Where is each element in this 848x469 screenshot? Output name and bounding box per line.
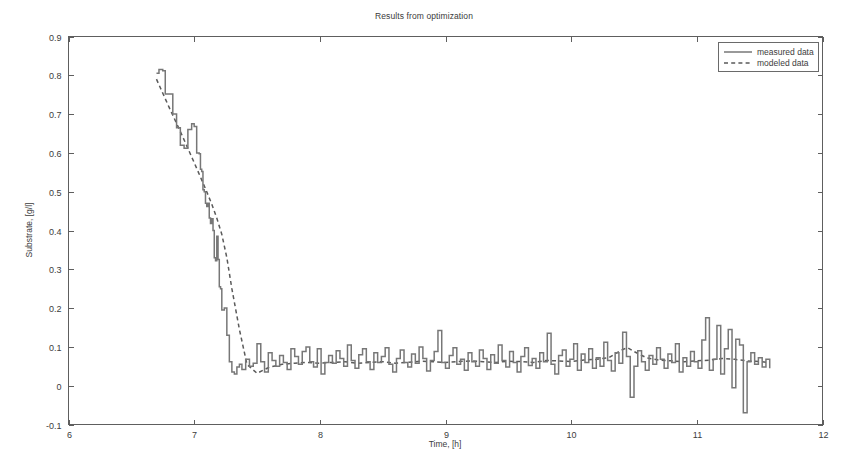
y-tick-label-0.6: 0.6 [49, 149, 62, 159]
y-tick-label-0.3: 0.3 [49, 265, 62, 275]
series-line-modeled-data [156, 79, 769, 373]
y-tick-label--0.1: -0.1 [46, 421, 62, 431]
y-tick-label-0.5: 0.5 [49, 188, 62, 198]
y-tick-label-0.9: 0.9 [49, 33, 62, 43]
figure-canvas: Results from optimization 6789101112 -0.… [0, 0, 848, 469]
y-tick-label-0.8: 0.8 [49, 71, 62, 81]
plot-svg: 6789101112 -0.100.10.20.30.40.50.60.70.8… [0, 0, 848, 469]
x-tick-label-9: 9 [444, 430, 449, 440]
x-tick-label-8: 8 [318, 430, 323, 440]
legend-label-modeled-data: modeled data [757, 58, 809, 68]
x-tick-label-11: 11 [693, 430, 702, 440]
x-axis-label: Time, [h] [429, 439, 462, 449]
x-tick-label-10: 10 [566, 430, 576, 440]
x-tick-label-7: 7 [192, 430, 197, 440]
x-tick-label-12: 12 [818, 430, 828, 440]
y-tick-label-0.2: 0.2 [49, 304, 62, 314]
legend-label-measured-data: measured data [757, 47, 814, 57]
y-axis-label: Substrate, [g/l] [24, 203, 34, 258]
x-tick-label-6: 6 [67, 430, 72, 440]
y-tick-label-0.1: 0.1 [49, 343, 62, 353]
y-tick-label-0: 0 [56, 382, 61, 392]
x-axis-tick-labels: 6789101112 [67, 430, 829, 440]
y-tick-label-0.4: 0.4 [49, 227, 62, 237]
legend: measured data modeled data [719, 43, 819, 72]
y-axis-tick-labels: -0.100.10.20.30.40.50.60.70.80.9 [46, 33, 62, 431]
y-tick-label-0.7: 0.7 [49, 110, 62, 120]
x-axis-ticks [70, 37, 824, 425]
